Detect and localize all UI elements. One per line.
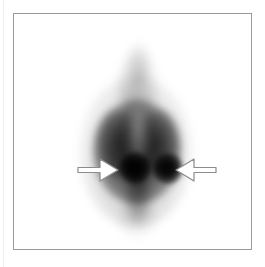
gland-body: [93, 100, 181, 204]
superior-plume: [118, 50, 158, 126]
right-lobe-shoulder: [138, 110, 180, 176]
annotation-arrow-left-icon: [77, 157, 119, 183]
central-notch: [128, 106, 148, 164]
diffuse-background-halo: [80, 76, 192, 228]
page-edge-artifact: [3, 0, 4, 267]
figure-page: [0, 0, 265, 267]
scintigram-frame: [13, 13, 252, 250]
inferior-tail-faint: [118, 200, 156, 238]
annotation-arrow-right-icon: [175, 157, 217, 183]
focal-hotspot-left: [119, 152, 151, 184]
inferior-tail: [124, 174, 152, 224]
scintigram-canvas: [14, 14, 251, 249]
superior-plume-tip: [128, 42, 150, 86]
